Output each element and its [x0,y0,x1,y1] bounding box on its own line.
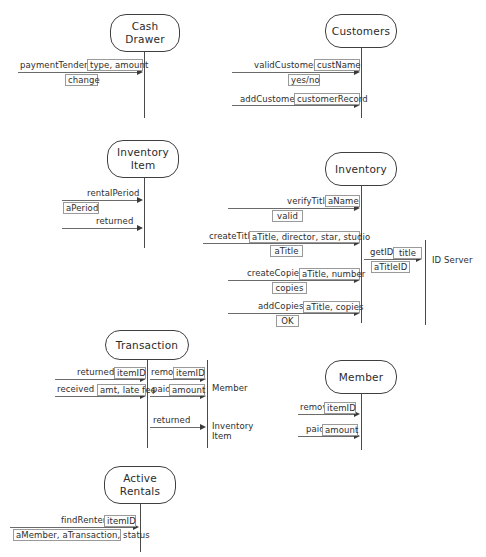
param-box-customer-record: customerRecord [294,93,360,105]
return-box-ok: OK [276,315,299,327]
lifeline-transaction [147,360,148,448]
message-line-received [55,396,141,397]
arrowhead-returned-inventory-side [200,424,206,430]
message-label-get-id: getID [370,247,394,257]
param-box-type-amount: type, amount [87,59,143,71]
message-line-create-title [203,243,355,244]
message-line-paid-member [298,436,355,437]
lifeline-id-server [425,240,426,325]
message-line-add-customer [232,105,355,106]
return-box-copies: copies [272,282,307,294]
param-box-item-id-remove: itemID [173,367,205,379]
param-box-create-title-args: aTitle, director, star, studio [249,231,360,243]
message-label-verify-title: verifyTitle [287,196,330,206]
sequence-diagram-canvas: Cash Drawer paymentTendered type, amount… [0,0,486,557]
message-line-returned-inventory-item [62,228,138,229]
message-line-create-copies [228,280,355,281]
param-box-item-id-find-renter: itemID [104,515,136,527]
return-box-change: change [65,74,98,86]
param-box-amount-paid: amount [169,384,205,396]
return-box-find-renter: aMember, aTransaction, status [13,529,121,541]
return-box-valid: valid [272,210,303,222]
message-label-received: received [57,384,94,394]
param-box-add-copies-args: aTitle, copies [303,301,360,313]
object-cash-drawer[interactable]: Cash Drawer [110,14,180,52]
message-line-get-id [364,259,417,260]
message-label-valid-customer: validCustomer [254,60,317,70]
lifeline-member [361,394,362,450]
message-line-verify-title [228,208,355,209]
message-label-returned-inventory-side: returned [153,415,190,425]
return-box-a-title-id: aTitleID [371,261,410,273]
param-box-cust-name: custName [314,59,360,71]
lifeline-customers [361,48,362,118]
object-inventory[interactable]: Inventory [325,152,397,186]
message-label-returned-inventory-item: returned [96,216,133,226]
label-member-side: Member [212,383,248,393]
param-box-create-copies-args: aTitle, number [299,268,360,280]
object-inventory-item[interactable]: Inventory Item [107,140,179,178]
param-box-item-id-member: itemID [324,402,356,414]
object-customers[interactable]: Customers [325,14,397,48]
param-box-a-name: aName [325,195,360,207]
message-label-rental-period: rentalPeriod [87,188,140,198]
param-box-title: title [393,247,422,259]
message-line-rental-period [62,200,138,201]
message-line-remove-member [298,414,355,415]
message-label-paid-member-side: paid [152,384,171,394]
message-label-add-customer: addCustomer [240,94,298,104]
label-id-server: ID Server [432,255,473,265]
object-transaction[interactable]: Transaction [105,330,189,360]
message-line-add-copies [228,313,355,314]
message-line-remove-member-side [150,379,201,380]
message-line-find-renter [10,527,134,528]
message-label-find-renter: findRenter [61,515,106,525]
arrowhead-returned-inventory-item [137,225,143,231]
message-label-returned-transaction: returned [77,367,114,377]
message-label-add-copies: addCopies [258,301,303,311]
object-active-rentals[interactable]: Active Rentals [104,466,176,504]
message-line-valid-customer [232,72,355,73]
message-line-paid-member-side [150,396,201,397]
object-member[interactable]: Member [325,360,397,394]
return-box-yes-no: yes/no [288,74,320,86]
label-inventory-item-side: Inventory Item [212,421,254,441]
message-line-payment-tendered [18,72,138,73]
message-line-returned-transaction [55,379,141,380]
lifeline-transaction-right [207,360,208,448]
return-box-a-period: aPeriod [63,202,99,214]
param-box-amount-member: amount [322,424,358,436]
lifeline-active-rentals [140,504,141,552]
return-box-a-title: aTitle [270,245,303,257]
lifeline-inventory-item [144,178,145,248]
param-box-amt-late-fee: amt, late fee [97,384,146,396]
param-box-item-id-returned: itemID [114,367,146,379]
message-line-returned-inventory-side [150,427,201,428]
message-label-create-copies: createCopies [247,268,304,278]
